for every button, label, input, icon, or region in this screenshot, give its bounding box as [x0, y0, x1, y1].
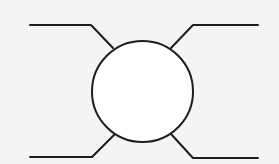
diagram-canvas: [0, 0, 279, 164]
lead-bottom-right: [171, 134, 258, 158]
lead-top-left: [30, 25, 113, 48]
central-circle-node: [92, 41, 193, 142]
lead-bottom-left: [30, 135, 114, 157]
lead-top-right: [171, 25, 258, 48]
circle-with-four-leads-diagram: [0, 0, 279, 164]
